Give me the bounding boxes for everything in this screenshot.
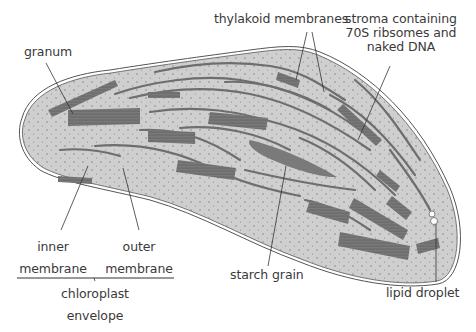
- lipid-droplet: [429, 211, 435, 217]
- lipid-droplet: [431, 218, 438, 225]
- label-envelope-line1: chloroplast: [55, 283, 135, 305]
- label-thylakoid-membranes: thylakoid membranes: [214, 12, 348, 26]
- label-stroma-line2: 70S ribsomes and: [336, 26, 466, 40]
- label-stroma-line3: naked DNA: [336, 40, 466, 54]
- granum: [148, 92, 180, 98]
- label-stroma-line1: stroma containing: [336, 12, 466, 26]
- label-outer-line1: outer: [104, 236, 174, 258]
- label-outer-line2: membrane: [104, 258, 174, 280]
- label-outer-membrane: outer membrane: [104, 236, 174, 280]
- label-starch-grain: starch grain: [230, 268, 304, 282]
- label-stroma: stroma containing 70S ribsomes and naked…: [336, 12, 466, 54]
- label-inner-line1: inner: [18, 236, 88, 258]
- chloroplast-diagram: granum thylakoid membranes stroma contai…: [0, 0, 476, 332]
- label-granum: granum: [24, 45, 72, 59]
- label-lipid-droplet: lipid droplet: [386, 286, 459, 300]
- label-inner-membrane: inner membrane: [18, 236, 88, 280]
- label-inner-line2: membrane: [18, 258, 88, 280]
- granum: [148, 130, 195, 144]
- granum: [68, 108, 140, 126]
- label-envelope-line2: envelope: [55, 305, 135, 327]
- label-chloroplast-envelope: chloroplast envelope: [55, 283, 135, 327]
